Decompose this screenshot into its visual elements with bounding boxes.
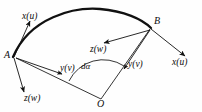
label-point-b: B — [154, 16, 160, 26]
label-axis-a-x: x(u) — [22, 12, 37, 22]
axis-arrow-a-y — [16, 58, 62, 74]
axis-arrow-a-x — [14, 21, 30, 57]
label-axis-a-z: z(w) — [24, 94, 40, 104]
figure-container: x(u) A z(w) y(v) dα O z(w) y(v) B x(u) — [0, 0, 202, 112]
label-axis-b-z: z(w) — [90, 45, 106, 55]
label-axis-b-x: x(u) — [172, 58, 187, 68]
label-axis-b-y: y(v) — [128, 60, 143, 70]
axis-arrow-b-x — [151, 29, 185, 56]
label-point-a: A — [4, 50, 10, 60]
axis-arrow-a-z — [14, 58, 24, 92]
label-axis-a-y: y(v) — [60, 64, 75, 74]
label-angle-d-alpha: dα — [81, 62, 90, 71]
label-point-o: O — [97, 99, 104, 109]
